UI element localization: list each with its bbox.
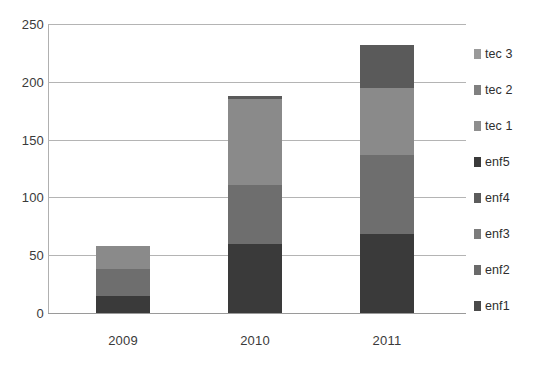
legend-item-label: enf1 <box>485 299 510 313</box>
legend: tec 3tec 2tec 1enf5enf4enf3enf2enf1 <box>474 36 536 324</box>
legend-swatch-icon <box>474 301 481 311</box>
legend-item-enf3[interactable]: enf3 <box>474 216 536 252</box>
bar-2010[interactable] <box>228 96 282 313</box>
legend-swatch-icon <box>474 265 481 275</box>
legend-item-label: tec 1 <box>485 119 513 133</box>
bar-segment-2010-enf3[interactable] <box>228 185 282 244</box>
x-tick-label-2009: 2009 <box>83 333 163 348</box>
legend-item-enf4[interactable]: enf4 <box>474 180 536 216</box>
y-tick-label-0: 0 <box>2 306 44 321</box>
x-tick-label-2010: 2010 <box>215 333 295 348</box>
legend-swatch-icon <box>474 193 481 203</box>
legend-swatch-icon <box>474 121 481 131</box>
bar-segment-2010-enf1[interactable] <box>228 244 282 313</box>
bar-segment-2011-tec3[interactable] <box>360 45 414 88</box>
y-tick-label-200: 200 <box>2 74 44 89</box>
legend-item-label: enf3 <box>485 227 510 241</box>
legend-item-label: tec 2 <box>485 83 513 97</box>
y-tick-label-250: 250 <box>2 17 44 32</box>
bar-segment-2009-tec1[interactable] <box>96 246 150 269</box>
stacked-bar-chart: 050100150200250 200920102011 tec 3tec 2t… <box>0 0 537 387</box>
legend-item-label: enf5 <box>485 155 510 169</box>
bar-segment-2010-tec1[interactable] <box>228 99 282 185</box>
legend-item-tec1[interactable]: tec 1 <box>474 108 536 144</box>
gridline-250 <box>48 24 466 25</box>
bar-segment-2009-enf3[interactable] <box>96 269 150 296</box>
gridline-0 <box>48 313 466 314</box>
bar-segment-2011-tec1[interactable] <box>360 88 414 155</box>
bar-segment-2011-enf3[interactable] <box>360 155 414 235</box>
legend-swatch-icon <box>474 49 481 59</box>
bar-2009[interactable] <box>96 246 150 313</box>
legend-swatch-icon <box>474 229 481 239</box>
bar-2011[interactable] <box>360 45 414 313</box>
legend-item-label: enf2 <box>485 263 510 277</box>
legend-item-enf5[interactable]: enf5 <box>474 144 536 180</box>
plot-area <box>48 24 466 313</box>
y-axis: 050100150200250 <box>0 24 44 313</box>
legend-swatch-icon <box>474 157 481 167</box>
legend-item-tec3[interactable]: tec 3 <box>474 36 536 72</box>
legend-item-enf2[interactable]: enf2 <box>474 252 536 288</box>
legend-swatch-icon <box>474 85 481 95</box>
y-tick-label-150: 150 <box>2 132 44 147</box>
x-tick-label-2011: 2011 <box>347 333 427 348</box>
legend-item-label: enf4 <box>485 191 510 205</box>
y-tick-label-100: 100 <box>2 190 44 205</box>
y-tick-label-50: 50 <box>2 248 44 263</box>
legend-item-enf1[interactable]: enf1 <box>474 288 536 324</box>
legend-item-tec2[interactable]: tec 2 <box>474 72 536 108</box>
legend-item-label: tec 3 <box>485 47 513 61</box>
bar-segment-2011-enf1[interactable] <box>360 234 414 313</box>
bar-segment-2009-enf1[interactable] <box>96 296 150 313</box>
